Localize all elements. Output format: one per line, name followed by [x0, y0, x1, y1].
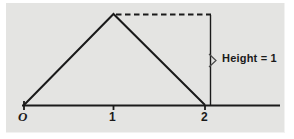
- height-annotation-label: Height = 1: [222, 53, 277, 64]
- axis-origin-label: O: [18, 110, 27, 123]
- axis-tick-label-2: 2: [201, 111, 208, 123]
- axis-tick-label-1: 1: [109, 111, 116, 123]
- plot-panel-background: [6, 3, 285, 133]
- figure-root: O 1 2 Height = 1: [0, 0, 294, 139]
